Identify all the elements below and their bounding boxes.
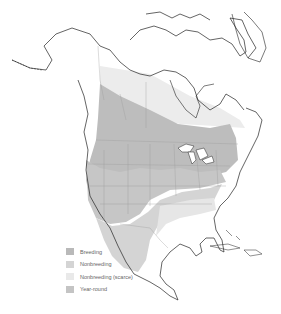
legend-label: Breeding (80, 249, 102, 255)
legend-item-year-round: Year-round (66, 284, 133, 295)
caribbean-islands (210, 230, 262, 256)
swatch-year-round (66, 286, 74, 293)
legend-item-nonbreeding-scarce: Nonbreeding (scarce) (66, 271, 133, 282)
swatch-breeding (66, 248, 74, 255)
legend-label: Nonbreeding (scarce) (80, 274, 133, 280)
legend-label: Year-round (80, 286, 107, 292)
map-legend: Breeding Nonbreeding Nonbreeding (scarce… (66, 246, 133, 296)
legend-item-nonbreeding: Nonbreeding (66, 259, 133, 270)
legend-item-breeding: Breeding (66, 246, 133, 257)
swatch-nonbreeding-scarce (66, 273, 74, 280)
legend-label: Nonbreeding (80, 261, 112, 267)
range-map (0, 0, 281, 314)
aleutian-islands (12, 60, 42, 70)
swatch-nonbreeding (66, 261, 74, 268)
